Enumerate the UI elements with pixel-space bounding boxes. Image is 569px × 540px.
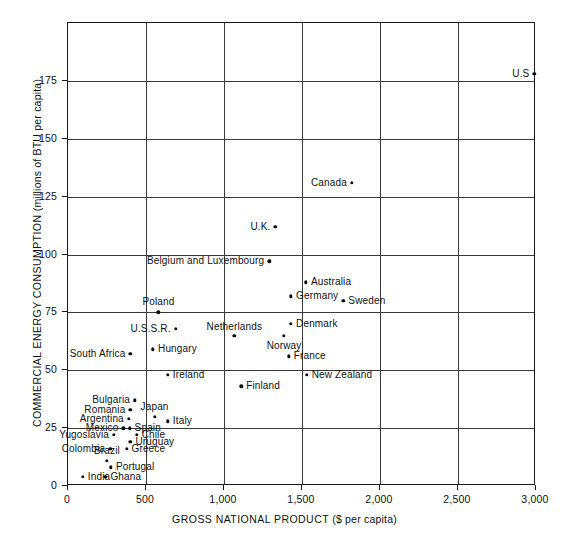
data-point [350, 181, 353, 184]
gridline-horizontal [68, 197, 534, 198]
y-axis-title-main: COMMERCIAL ENERGY CONSUMPTION [31, 215, 43, 428]
y-axis-tick [62, 485, 67, 486]
gridline-vertical [224, 23, 225, 484]
x-axis-tick [301, 485, 302, 490]
data-point [125, 447, 128, 450]
data-point [239, 385, 242, 388]
data-point-label: U.S [512, 69, 529, 79]
data-point-label: U.S.S.R. [131, 324, 171, 334]
x-axis-title-main: GROSS NATIONAL PRODUCT [172, 513, 329, 525]
data-point [133, 399, 136, 402]
data-point-label: Germany [296, 291, 338, 301]
data-point [342, 299, 345, 302]
y-axis-tick [62, 369, 67, 370]
data-point-label: France [294, 351, 326, 361]
data-point [166, 419, 169, 422]
data-point [289, 322, 292, 325]
data-point-label: Greece [132, 444, 166, 454]
data-point [129, 408, 132, 411]
x-axis-tick [223, 485, 224, 490]
scatter-chart-figure: U.SCanadaU.K.Belgium and LuxembourgAustr… [0, 0, 569, 540]
data-point-label: Yugoslavia [59, 430, 109, 440]
gridline-vertical [458, 23, 459, 484]
data-point [153, 415, 156, 418]
x-axis-tick-label: 0 [64, 493, 70, 505]
y-axis-title: COMMERCIAL ENERGY CONSUMPTION (millions … [31, 33, 43, 473]
y-axis-tick-label: 0 [19, 479, 57, 491]
y-axis-tick [62, 80, 67, 81]
data-point [274, 225, 277, 228]
x-axis-tick [457, 485, 458, 490]
data-point [157, 311, 160, 314]
data-point [289, 294, 292, 297]
data-point-label: India [88, 472, 110, 482]
x-axis-tick-label: 500 [136, 493, 154, 505]
data-point [166, 373, 169, 376]
data-point-label: Norway [267, 341, 302, 351]
data-point [232, 334, 235, 337]
data-point [533, 72, 536, 75]
data-point [287, 355, 290, 358]
y-axis-tick [62, 427, 67, 428]
data-point [109, 466, 112, 469]
gridline-horizontal [68, 370, 534, 371]
data-point [268, 260, 271, 263]
y-axis-tick [62, 196, 67, 197]
plot-area: U.SCanadaU.K.Belgium and LuxembourgAustr… [67, 22, 535, 485]
x-axis-tick [67, 485, 68, 490]
y-axis-tick [62, 311, 67, 312]
data-point [129, 352, 132, 355]
gridline-horizontal [68, 255, 534, 256]
data-point [127, 417, 130, 420]
data-point [304, 281, 307, 284]
x-axis-title: GROSS NATIONAL PRODUCT ($ per capita) [0, 513, 569, 525]
x-axis-tick-label: 2,500 [443, 493, 470, 505]
data-point [128, 426, 131, 429]
data-point-label: Sweden [348, 296, 385, 306]
x-axis-tick-label: 1,500 [287, 493, 314, 505]
data-point-label: Belgium and Luxembourg [147, 256, 264, 266]
data-point [81, 475, 84, 478]
data-point-label: Netherlands [207, 322, 263, 332]
data-point-label: Finland [246, 381, 280, 391]
data-point-label: South Africa [70, 349, 126, 359]
data-point-label: Hungary [158, 344, 197, 354]
data-point-label: Brazil [94, 446, 120, 456]
data-point [305, 373, 308, 376]
data-point-label: Ghana [110, 472, 141, 482]
x-axis-title-unit: ($ per capita) [332, 513, 397, 525]
data-point-label: New Zealand [312, 370, 373, 380]
x-axis-tick-label: 3,000 [521, 493, 548, 505]
data-point-label: U.K. [250, 222, 270, 232]
x-axis-tick [535, 485, 536, 490]
data-point-label: Japan [141, 402, 169, 412]
x-axis-tick-label: 1,000 [209, 493, 236, 505]
data-point [282, 334, 285, 337]
gridline-horizontal [68, 312, 534, 313]
data-point [174, 327, 177, 330]
x-axis-tick-label: 2,000 [365, 493, 392, 505]
data-point [105, 459, 108, 462]
gridline-vertical [380, 23, 381, 484]
gridline-vertical [302, 23, 303, 484]
gridline-horizontal [68, 139, 534, 140]
gridline-horizontal [68, 81, 534, 82]
gridline-vertical [146, 23, 147, 484]
x-axis-tick [379, 485, 380, 490]
data-point-label: Ireland [173, 370, 205, 380]
data-point [112, 433, 115, 436]
y-axis-tick [62, 254, 67, 255]
data-point-label: Australia [311, 277, 351, 287]
data-point [122, 426, 125, 429]
data-point-label: Canada [311, 178, 347, 188]
y-axis-tick [62, 138, 67, 139]
data-point-label: Denmark [296, 319, 338, 329]
data-point-label: Italy [173, 416, 192, 426]
data-point [151, 348, 154, 351]
data-point-label: Poland [142, 297, 174, 307]
y-axis-title-unit: (millions of BTU per capita) [31, 79, 43, 211]
x-axis-tick [145, 485, 146, 490]
